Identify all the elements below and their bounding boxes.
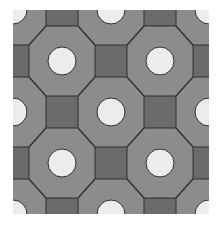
circle-tile [0,200,27,228]
tiling-pattern [0,0,224,237]
circle-tile [146,149,174,177]
circle-tile [195,0,223,24]
square-tile [95,147,127,179]
square-tile [95,45,127,77]
square-tile [193,45,224,77]
square-tile [144,198,176,230]
circle-tile [146,47,174,75]
square-tile [144,96,176,128]
square-tile [0,45,29,77]
circle-tile [48,149,76,177]
circle-tile [97,200,125,228]
diagonal-line [78,230,95,237]
diagonal-line [176,230,193,237]
circle-tile [0,0,27,24]
circle-tile [97,0,125,24]
circle-tile [195,200,223,228]
square-tile [46,198,78,230]
square-tile [46,0,78,26]
diagonal-line [127,230,144,237]
circle-tile [195,98,223,126]
tiles-group [0,0,224,237]
square-tile [193,147,224,179]
square-tile [46,96,78,128]
square-tile [0,147,29,179]
circle-tile [0,98,27,126]
square-tile [144,0,176,26]
circle-tile [97,98,125,126]
diagonal-line [29,230,46,237]
circle-tile [48,47,76,75]
